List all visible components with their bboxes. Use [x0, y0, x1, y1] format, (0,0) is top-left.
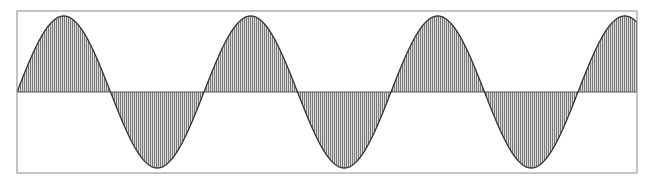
sine-wave-figure: [0, 0, 656, 186]
sine-wave-canvas: [0, 0, 656, 186]
